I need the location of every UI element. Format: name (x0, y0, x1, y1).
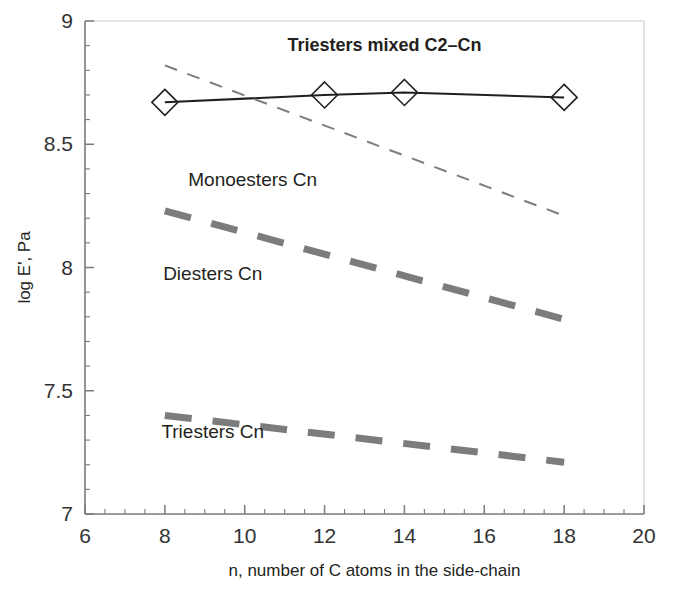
x-tick-label: 6 (79, 524, 91, 547)
series-annotation-1: Monoesters Cn (188, 169, 317, 190)
chart-canvas: 6810121416182077.588.59 Triesters mixed … (0, 0, 674, 598)
chart-background (0, 0, 674, 598)
y-tick-label: 7 (61, 502, 73, 525)
y-tick-label: 8 (61, 256, 73, 279)
y-axis-title: log E', Pa (15, 231, 34, 304)
x-tick-label: 8 (159, 524, 171, 547)
series-annotation-0: Triesters mixed C2–Cn (287, 35, 481, 55)
series-annotation-3: Triesters Cn (161, 421, 264, 442)
y-tick-label: 8.5 (44, 132, 73, 155)
x-tick-label: 20 (632, 524, 655, 547)
x-tick-label: 10 (233, 524, 256, 547)
x-tick-label: 12 (313, 524, 336, 547)
y-tick-label: 7.5 (44, 379, 73, 402)
y-tick-label: 9 (61, 9, 73, 32)
chart-figure: 6810121416182077.588.59 Triesters mixed … (0, 0, 674, 598)
x-tick-label: 18 (552, 524, 575, 547)
x-axis-title: n, number of C atoms in the side-chain (229, 561, 521, 580)
series-annotation-2: Diesters Cn (163, 263, 262, 284)
x-tick-label: 14 (393, 524, 417, 547)
x-tick-label: 16 (473, 524, 496, 547)
